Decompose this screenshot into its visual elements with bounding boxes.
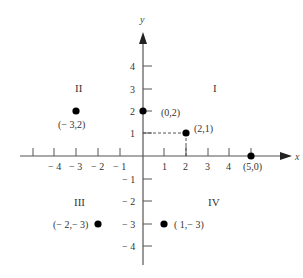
- y-axis-arrow-icon: [139, 32, 147, 44]
- y-tick-label: − 4: [122, 241, 135, 252]
- y-tick-label: − 2: [122, 196, 135, 207]
- quadrant-label-iv: IV: [208, 196, 220, 208]
- x-axis-arrow-icon: [280, 152, 292, 160]
- point-1-neg3: [160, 220, 167, 227]
- y-tick-label: 3: [130, 84, 135, 95]
- point-5-0: [247, 152, 254, 159]
- y-axis-label: y: [139, 14, 145, 25]
- point-2-1: [182, 129, 189, 136]
- point-label: (5,0): [243, 161, 262, 173]
- quadrant-label-iii: III: [74, 196, 85, 208]
- x-tick-label: − 4: [48, 161, 61, 172]
- point-label: (− 3,2): [58, 119, 85, 131]
- y-tick-label: 4: [130, 61, 135, 72]
- x-axis-label: x: [294, 151, 300, 162]
- quadrant-label-ii: II: [75, 82, 83, 94]
- quadrant-label-i: I: [213, 82, 217, 94]
- x-tick-label: 4: [226, 161, 231, 172]
- x-tick-label: − 3: [69, 161, 82, 172]
- coordinate-plane: x y − 4 − 3 − 2 − 1 1 2 3 4 4 3 2 1 − 1 …: [0, 0, 303, 278]
- point-neg2-neg3: [94, 220, 101, 227]
- y-tick-label: − 1: [122, 174, 135, 185]
- y-tick-label: 2: [130, 106, 135, 117]
- x-tick-label: − 1: [113, 161, 126, 172]
- point-0-2: [139, 107, 146, 114]
- point-label: ( 1,− 3): [174, 219, 204, 231]
- point-label: (− 2,− 3): [53, 219, 88, 231]
- x-tick-label: 1: [162, 161, 167, 172]
- x-tick-label: 3: [205, 161, 210, 172]
- x-axis-ticks: [33, 146, 251, 156]
- y-tick-label: − 3: [122, 219, 135, 230]
- y-tick-label: 1: [130, 128, 135, 139]
- point-neg3-2: [72, 107, 79, 114]
- point-label: (2,1): [194, 123, 213, 135]
- point-label: (0,2): [161, 107, 180, 119]
- x-tick-label: − 2: [91, 161, 104, 172]
- x-tick-label: 2: [183, 161, 188, 172]
